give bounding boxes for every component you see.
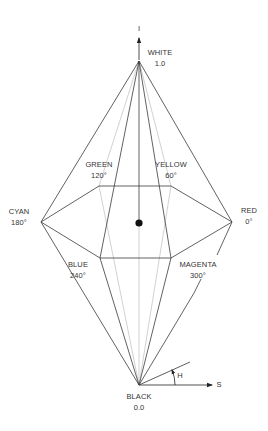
hue-red-label: RED 0°	[234, 206, 264, 226]
hue-magenta-label: MAGENTA 300°	[176, 260, 220, 280]
hue-cyan-angle: 180°	[4, 218, 34, 227]
hue-cyan-label: CYAN 180°	[4, 207, 34, 227]
hue-green-name: GREEN	[79, 160, 119, 169]
hue-magenta-name: MAGENTA	[176, 260, 220, 269]
hue-green-label: GREEN 120°	[79, 160, 119, 180]
hue-yellow-angle: 60°	[151, 171, 191, 180]
hue-blue-angle: 240°	[60, 271, 96, 280]
intensity-axis-label: I	[134, 24, 144, 33]
hue-green-angle: 120°	[79, 171, 119, 180]
hue-magenta-angle: 300°	[176, 271, 220, 280]
apex-white-label: WHITE 1.0	[142, 48, 178, 68]
hue-cyan-name: CYAN	[4, 207, 34, 216]
hue-blue-name: BLUE	[60, 260, 96, 269]
center-point	[135, 219, 142, 226]
apex-white-value: 1.0	[142, 59, 178, 68]
apex-black-value: 0.0	[121, 403, 157, 412]
apex-white-name: WHITE	[142, 48, 178, 57]
hue-yellow-label: YELLOW 60°	[151, 160, 191, 180]
hsi-double-hexcone-diagram	[0, 0, 268, 431]
hue-red-name: RED	[234, 206, 264, 215]
apex-black-label: BLACK 0.0	[121, 392, 157, 412]
saturation-axis-label: S	[214, 380, 224, 389]
hue-yellow-name: YELLOW	[151, 160, 191, 169]
hue-red-angle: 0°	[234, 217, 264, 226]
hue-axis-label: H	[175, 371, 185, 380]
apex-black-name: BLACK	[121, 392, 157, 401]
hue-blue-label: BLUE 240°	[60, 260, 96, 280]
